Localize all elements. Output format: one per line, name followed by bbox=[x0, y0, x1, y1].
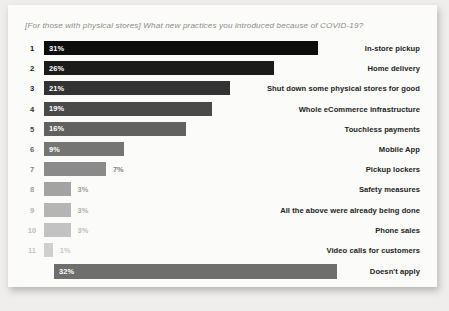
bar-row: 131%In-store pickup bbox=[8, 38, 437, 58]
bar-category-label: Safety measures bbox=[359, 185, 420, 194]
bar-category-label: Pickup lockers bbox=[366, 165, 420, 174]
bar-value-label: 7% bbox=[113, 165, 124, 174]
bar-rank-number: 9 bbox=[26, 205, 38, 214]
bar-track: 19% bbox=[44, 102, 212, 116]
bar-value-label: 31% bbox=[49, 44, 64, 53]
bar-value-label: 3% bbox=[78, 225, 89, 234]
bar-track bbox=[44, 203, 71, 217]
bar-category-label: All the above were already being done bbox=[280, 205, 420, 214]
bar-category-label: Doesn't apply bbox=[370, 267, 420, 276]
bar: 9% bbox=[44, 142, 124, 156]
bar-row: 93%All the above were already being done bbox=[8, 200, 437, 220]
bar-category-label: Home delivery bbox=[367, 64, 420, 73]
bar-rank-number: 6 bbox=[26, 145, 38, 154]
bar-row: 69%Mobile App bbox=[8, 139, 437, 159]
bar-row: 516%Touchless payments bbox=[8, 119, 437, 139]
bar-category-label: Mobile App bbox=[379, 145, 420, 154]
bar bbox=[44, 182, 71, 196]
bar-category-label: Shut down some physical stores for good bbox=[267, 84, 420, 93]
bar-rank-number: 11 bbox=[26, 245, 38, 254]
chart-card: [For those with physical stores] What ne… bbox=[8, 5, 437, 287]
bar-category-label: Whole eCommerce infrastructure bbox=[299, 104, 420, 113]
bar-track: 32% bbox=[54, 264, 337, 278]
bar-track: 16% bbox=[44, 122, 186, 136]
bar-row: 419%Whole eCommerce infrastructure bbox=[8, 99, 437, 119]
bar: 26% bbox=[44, 61, 274, 75]
bar-row: 77%Pickup lockers bbox=[8, 159, 437, 179]
chart-title: [For those with physical stores] What ne… bbox=[25, 21, 363, 30]
bar: 21% bbox=[44, 81, 230, 95]
bar-rank-number: 1 bbox=[26, 44, 38, 53]
bar bbox=[44, 223, 71, 237]
bar-category-label: In-store pickup bbox=[365, 44, 420, 53]
bar-value-label: 21% bbox=[49, 84, 64, 93]
bar-chart-plot: 131%In-store pickup226%Home delivery321%… bbox=[8, 38, 437, 282]
bar-value-label: 1% bbox=[60, 245, 71, 254]
bar bbox=[44, 203, 71, 217]
bar-value-label: 26% bbox=[49, 64, 64, 73]
bar-category-label: Phone sales bbox=[375, 225, 420, 234]
bar-category-label: Video calls for customers bbox=[326, 245, 420, 254]
bar-track bbox=[44, 162, 106, 176]
bar-track: 31% bbox=[44, 41, 318, 55]
bar-row: 103%Phone sales bbox=[8, 220, 437, 240]
bar-track: 9% bbox=[44, 142, 124, 156]
bar-value-label: 9% bbox=[49, 145, 60, 154]
bar-value-label: 3% bbox=[78, 185, 89, 194]
bar: 31% bbox=[44, 41, 318, 55]
bar-value-label: 3% bbox=[78, 205, 89, 214]
bar-track bbox=[44, 223, 71, 237]
bar-rank-number: 3 bbox=[26, 84, 38, 93]
bar-rank-number: 10 bbox=[26, 225, 38, 234]
bar bbox=[44, 162, 106, 176]
bar: 32% bbox=[54, 264, 337, 279]
bar-rank-number: 7 bbox=[26, 165, 38, 174]
bar-row: 32%Doesn't apply bbox=[8, 260, 437, 282]
bar-row: 226%Home delivery bbox=[8, 58, 437, 78]
bar-track: 26% bbox=[44, 61, 274, 75]
bar-value-label: 32% bbox=[59, 267, 74, 276]
bar-row: 111%Video calls for customers bbox=[8, 240, 437, 260]
bar-track bbox=[44, 182, 71, 196]
bar: 16% bbox=[44, 122, 186, 136]
bar-value-label: 19% bbox=[49, 104, 64, 113]
bar-track bbox=[44, 243, 53, 257]
bar: 19% bbox=[44, 102, 212, 116]
bar-track: 21% bbox=[44, 81, 230, 95]
bar-row: 83%Safety measures bbox=[8, 179, 437, 199]
bar-rank-number: 8 bbox=[26, 185, 38, 194]
bar-rank-number: 5 bbox=[26, 124, 38, 133]
bar-rank-number: 4 bbox=[26, 104, 38, 113]
bar-category-label: Touchless payments bbox=[345, 124, 420, 133]
bar-row: 321%Shut down some physical stores for g… bbox=[8, 78, 437, 98]
bar-rank-number: 2 bbox=[26, 64, 38, 73]
bar bbox=[44, 243, 53, 257]
bar-value-label: 16% bbox=[49, 124, 64, 133]
